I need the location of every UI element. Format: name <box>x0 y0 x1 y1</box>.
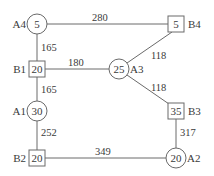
node-a4: 5 A4 <box>13 14 47 34</box>
node-b3: 35 B3 <box>168 103 201 119</box>
edge-weight-a4-b1: 165 <box>41 42 57 53</box>
node-b4: 5 B4 <box>168 16 201 32</box>
edge-weight-b3-a2: 317 <box>180 127 196 138</box>
edge-weight-a1-b2: 252 <box>41 127 57 138</box>
node-a1: 30 A1 <box>13 101 47 121</box>
node-value: 35 <box>171 105 183 117</box>
edge-weight-a4-b4: 280 <box>92 12 108 23</box>
node-label: A1 <box>13 105 26 117</box>
edge-weight-b1-a1: 165 <box>41 84 57 95</box>
node-a3: 25 A3 <box>109 59 144 79</box>
node-value: 25 <box>114 63 126 75</box>
network-diagram: 280 165 180 118 118 165 252 349 317 5 A4… <box>0 0 214 176</box>
node-value: 30 <box>32 105 44 117</box>
node-label: B3 <box>188 105 201 117</box>
node-value: 5 <box>34 18 40 30</box>
node-b2: 20 B2 <box>13 150 45 166</box>
node-value: 20 <box>32 63 44 75</box>
edge-labels: 280 165 180 118 118 165 252 349 317 <box>41 12 196 157</box>
edge-weight-b1-a3: 180 <box>68 57 84 68</box>
node-label: B4 <box>188 18 201 30</box>
node-label: A3 <box>130 63 144 75</box>
node-a2: 20 A2 <box>166 148 200 168</box>
node-value: 20 <box>32 152 44 164</box>
node-value: 5 <box>173 18 179 30</box>
node-value: 20 <box>171 152 183 164</box>
node-label: B1 <box>13 63 26 75</box>
edge-weight-a3-b3: 118 <box>151 82 166 93</box>
node-b1: 20 B1 <box>13 61 45 77</box>
edge-weight-b2-a2: 349 <box>95 146 111 157</box>
node-label: A2 <box>187 152 200 164</box>
node-label: B2 <box>13 152 26 164</box>
node-label: A4 <box>13 18 27 30</box>
edge-weight-a3-b4: 118 <box>151 50 166 61</box>
